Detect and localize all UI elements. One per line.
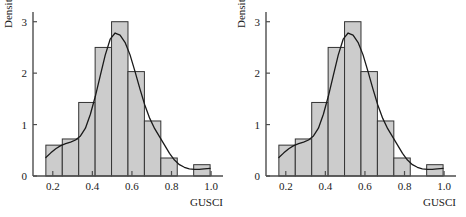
panel-right: 01230.20.40.60.81.0GUSCIDensity xyxy=(233,0,466,217)
x-axis-title: GUSCI xyxy=(190,196,223,208)
x-tick-label: 0.8 xyxy=(398,180,412,192)
y-axis-title: Density xyxy=(2,0,14,28)
x-axis-title: GUSCI xyxy=(423,196,456,208)
y-axis-title: Density xyxy=(235,0,247,28)
y-tick-label: 2 xyxy=(22,67,28,79)
panel-left: 01230.20.40.60.81.0GUSCIDensity xyxy=(0,0,233,217)
y-tick-label: 3 xyxy=(22,16,28,28)
histogram-bar xyxy=(128,72,144,176)
histogram-bar xyxy=(144,121,160,176)
histogram-bar xyxy=(361,72,377,176)
histogram-bar xyxy=(194,165,210,176)
bar-group xyxy=(279,22,443,176)
plot-content-right: 01230.20.40.60.81.0GUSCIDensity xyxy=(235,0,456,208)
y-tick-label: 1 xyxy=(22,119,28,131)
x-tick-label: 0.8 xyxy=(165,180,179,192)
x-tick-label: 0.6 xyxy=(358,180,372,192)
x-tick-label: 1.0 xyxy=(437,180,451,192)
y-tick-label: 3 xyxy=(255,16,261,28)
plot-content-left: 01230.20.40.60.81.0GUSCIDensity xyxy=(2,0,223,208)
histogram-bar xyxy=(95,47,111,176)
x-tick-label: 0.4 xyxy=(318,180,332,192)
y-tick-label: 1 xyxy=(255,119,261,131)
histogram-bar xyxy=(328,47,344,176)
y-tick-label: 0 xyxy=(255,170,261,182)
x-tick-label: 0.2 xyxy=(279,180,293,192)
bar-group xyxy=(46,22,210,176)
figure-root: 01230.20.40.60.81.0GUSCIDensity 01230.20… xyxy=(0,0,466,217)
histogram-bar xyxy=(377,121,393,176)
y-tick-label: 0 xyxy=(22,170,28,182)
histogram-bar xyxy=(79,102,95,176)
x-tick-label: 0.6 xyxy=(125,180,139,192)
histogram-bar xyxy=(312,102,328,176)
histogram-bar xyxy=(427,165,443,176)
histogram-plot-right: 01230.20.40.60.81.0GUSCIDensity xyxy=(233,0,466,217)
x-tick-label: 1.0 xyxy=(204,180,218,192)
histogram-plot-left: 01230.20.40.60.81.0GUSCIDensity xyxy=(0,0,233,217)
y-tick-label: 2 xyxy=(255,67,261,79)
x-tick-label: 0.2 xyxy=(46,180,60,192)
x-tick-label: 0.4 xyxy=(85,180,99,192)
